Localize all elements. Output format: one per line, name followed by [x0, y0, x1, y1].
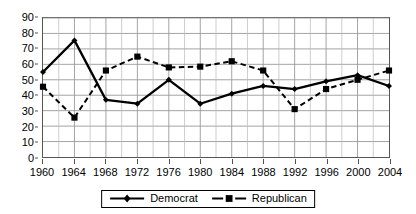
x-tick-mark — [263, 159, 264, 164]
x-tick-label: 1976 — [156, 167, 180, 178]
x-tick-label: 1996 — [314, 167, 338, 178]
y-tick-label: 50 — [22, 74, 34, 85]
chart-legend: Democrat Republican — [101, 190, 315, 208]
y-axis: 0102030405060708090 — [0, 17, 38, 158]
x-tick-label: 2004 — [378, 167, 402, 178]
series-line-democrat — [43, 40, 389, 103]
legend-entry-democrat[interactable]: Democrat — [109, 193, 198, 204]
x-tick-mark — [390, 159, 391, 164]
marker-square-republican — [134, 54, 140, 60]
y-tick-mark — [35, 64, 38, 65]
y-tick-mark — [35, 111, 38, 112]
y-tick-mark — [35, 126, 38, 127]
y-tick-mark — [35, 48, 38, 49]
marker-diamond-democrat — [229, 91, 235, 97]
legend-label-democrat: Democrat — [150, 193, 198, 204]
x-tick-mark — [105, 159, 106, 164]
marker-square-republican — [260, 67, 266, 73]
marker-square-republican — [103, 67, 109, 73]
y-tick-label: 10 — [22, 137, 34, 148]
y-tick-label: 20 — [22, 121, 34, 132]
x-tick-mark — [232, 159, 233, 164]
y-tick-mark — [35, 95, 38, 96]
x-tick-label: 1988 — [251, 167, 275, 178]
marker-square-republican — [292, 106, 298, 112]
x-tick-mark — [295, 159, 296, 164]
x-tick-mark — [42, 159, 43, 164]
y-tick-mark — [35, 142, 38, 143]
x-tick-label: 1964 — [61, 167, 85, 178]
y-tick-label: 90 — [22, 12, 34, 23]
x-tick-label: 1968 — [93, 167, 117, 178]
marker-square-republican — [166, 64, 172, 70]
y-tick-mark — [35, 79, 38, 80]
legend-entry-republican[interactable]: Republican — [211, 193, 307, 204]
x-tick-label: 2000 — [346, 167, 370, 178]
y-tick-label: 30 — [22, 106, 34, 117]
plot-area — [42, 17, 390, 158]
y-tick-label: 0 — [28, 153, 34, 164]
y-tick-mark — [35, 158, 38, 159]
marker-diamond-democrat — [386, 83, 392, 89]
marker-square-republican — [323, 86, 329, 92]
marker-square-republican — [229, 58, 235, 64]
marker-square-republican — [197, 64, 203, 70]
x-tick-label: 1960 — [30, 167, 54, 178]
y-tick-mark — [35, 32, 38, 33]
legend-swatch-solid-diamond-icon — [109, 193, 145, 204]
y-tick-label: 60 — [22, 59, 34, 70]
marker-diamond-democrat — [260, 83, 266, 89]
x-tick-mark — [327, 159, 328, 164]
x-tick-mark — [200, 159, 201, 164]
x-tick-mark — [74, 159, 75, 164]
x-tick-mark — [137, 159, 138, 164]
x-tick-label: 1972 — [125, 167, 149, 178]
x-tick-mark — [169, 159, 170, 164]
x-tick-label: 1984 — [220, 167, 244, 178]
x-axis: 1960196419681972197619801984198819921996… — [42, 159, 390, 183]
marker-square-republican — [40, 84, 46, 90]
marker-diamond-democrat — [323, 78, 329, 84]
marker-square-republican — [71, 115, 77, 121]
y-tick-mark — [35, 17, 38, 18]
chart-container: 0102030405060708090 19601964196819721976… — [0, 0, 416, 214]
y-tick-label: 70 — [22, 43, 34, 54]
x-tick-mark — [358, 159, 359, 164]
legend-label-republican: Republican — [252, 193, 307, 204]
y-tick-label: 80 — [22, 27, 34, 38]
x-tick-label: 1992 — [283, 167, 307, 178]
legend-swatch-dashed-square-icon — [211, 193, 247, 204]
marker-diamond-democrat — [292, 86, 298, 92]
marker-square-republican — [354, 77, 360, 83]
y-tick-label: 40 — [22, 90, 34, 101]
data-series-layer — [43, 18, 389, 157]
series-line-republican — [43, 57, 389, 118]
marker-square-republican — [386, 67, 392, 73]
x-tick-label: 1980 — [188, 167, 212, 178]
